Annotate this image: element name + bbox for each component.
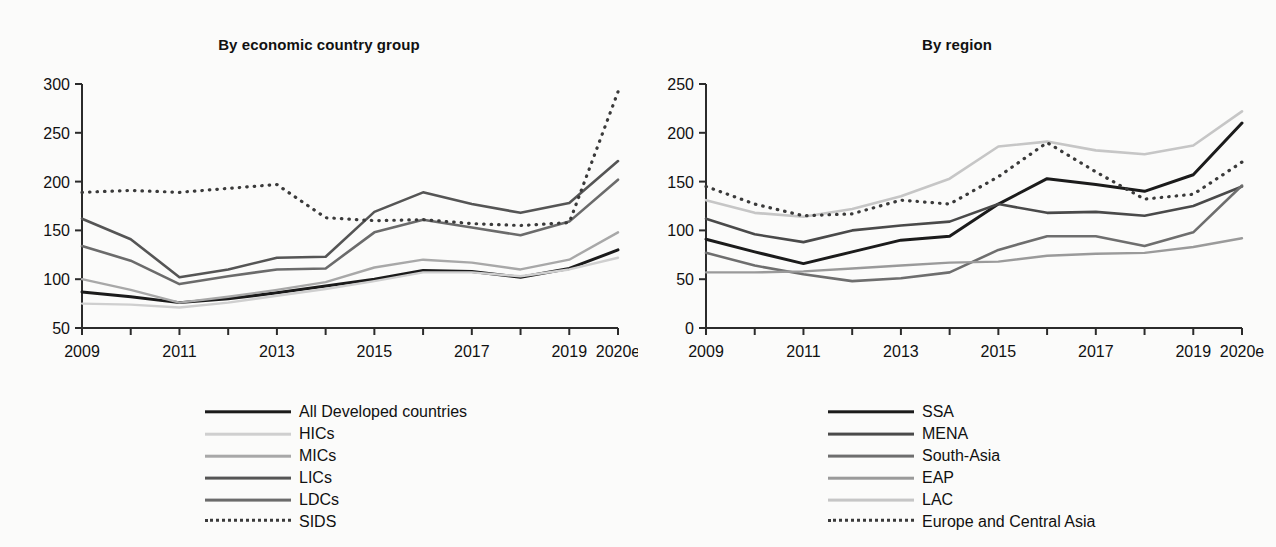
panel-title-right: By region bbox=[638, 36, 1276, 53]
legend-item-label: LICs bbox=[299, 470, 332, 486]
series-line bbox=[82, 232, 618, 302]
x-axis-tick-label: 2019 bbox=[551, 343, 587, 360]
x-axis-tick-label: 2009 bbox=[688, 343, 724, 360]
legend-item[interactable]: LICs bbox=[205, 467, 467, 489]
y-axis-tick-label: 50 bbox=[676, 271, 694, 288]
legend-item-label: MICs bbox=[299, 448, 336, 464]
legend-item-label: Europe and Central Asia bbox=[922, 514, 1095, 530]
x-axis-tick-label: 2013 bbox=[259, 343, 295, 360]
series-line bbox=[706, 238, 1242, 272]
panel-title-left: By economic country group bbox=[0, 36, 638, 53]
y-axis-tick-label: 50 bbox=[52, 320, 70, 337]
series-line bbox=[82, 180, 618, 284]
legend-item-label: HICs bbox=[299, 426, 335, 442]
legend-item-label: SIDS bbox=[299, 514, 336, 530]
series-line bbox=[706, 143, 1242, 216]
legend-line-swatch-icon bbox=[205, 515, 291, 529]
y-axis-tick-label: 100 bbox=[43, 271, 70, 288]
legend-line-swatch-icon bbox=[205, 493, 291, 507]
x-axis-tick-label: 2009 bbox=[64, 343, 100, 360]
legend-item[interactable]: Europe and Central Asia bbox=[828, 511, 1095, 533]
legend-line-swatch-icon bbox=[205, 427, 291, 441]
legend-item-label: South-Asia bbox=[922, 448, 1000, 464]
legend-line-swatch-icon bbox=[828, 515, 914, 529]
legend-item-label: LDCs bbox=[299, 492, 339, 508]
legend-item[interactable]: EAP bbox=[828, 467, 1095, 489]
legend-line-swatch-icon bbox=[828, 493, 914, 507]
legend-right: SSAMENASouth-AsiaEAPLACEurope and Centra… bbox=[638, 401, 1276, 533]
legend-item-label: SSA bbox=[922, 404, 954, 420]
y-axis-tick-label: 100 bbox=[667, 222, 694, 239]
x-axis-tick-label: 2013 bbox=[883, 343, 919, 360]
legend-line-swatch-icon bbox=[828, 449, 914, 463]
legend-item-label: MENA bbox=[922, 426, 968, 442]
legend-line-swatch-icon bbox=[205, 449, 291, 463]
x-axis-tick-label: 2011 bbox=[162, 343, 197, 360]
legend-item[interactable]: LAC bbox=[828, 489, 1095, 511]
y-axis-tick-label: 0 bbox=[685, 320, 694, 337]
x-axis-tick-label: 2017 bbox=[1078, 343, 1114, 360]
legend-item[interactable]: LDCs bbox=[205, 489, 467, 511]
legend-line-swatch-icon bbox=[828, 427, 914, 441]
legend-line-swatch-icon bbox=[205, 471, 291, 485]
legend-line-swatch-icon bbox=[828, 471, 914, 485]
plot-area-right: 0501001502002502009201120132015201720192… bbox=[638, 70, 1276, 360]
y-axis-tick-label: 250 bbox=[43, 125, 70, 142]
legend-line-swatch-icon bbox=[205, 405, 291, 419]
panel-by-region: By region 050100150200250200920112013201… bbox=[638, 0, 1276, 547]
plot-area-left: 5010015020025030020092011201320152017201… bbox=[0, 70, 638, 360]
x-axis-tick-label: 2017 bbox=[454, 343, 490, 360]
x-axis-tick-label: 2011 bbox=[786, 343, 821, 360]
legend-item-label: All Developed countries bbox=[299, 404, 467, 420]
y-axis-tick-label: 300 bbox=[43, 76, 70, 93]
panel-by-economic-country-group: By economic country group 50100150200250… bbox=[0, 0, 638, 547]
legend-item[interactable]: MENA bbox=[828, 423, 1095, 445]
legend-item[interactable]: MICs bbox=[205, 445, 467, 467]
legend-left: All Developed countriesHICsMICsLICsLDCsS… bbox=[0, 401, 638, 533]
series-line bbox=[82, 92, 618, 226]
y-axis-tick-label: 150 bbox=[667, 174, 694, 191]
two-panel-line-chart-figure: By economic country group 50100150200250… bbox=[0, 0, 1276, 547]
legend-item[interactable]: HICs bbox=[205, 423, 467, 445]
line-chart-svg-right: 0501001502002502009201120132015201720192… bbox=[638, 70, 1276, 360]
x-axis-tick-label: 2019 bbox=[1175, 343, 1211, 360]
x-axis-tick-label: 2020e bbox=[1220, 343, 1265, 360]
series-line bbox=[706, 111, 1242, 216]
x-axis-tick-label: 2020e bbox=[596, 343, 638, 360]
x-axis-tick-label: 2015 bbox=[981, 343, 1017, 360]
legend-item-label: LAC bbox=[922, 492, 953, 508]
legend-item[interactable]: SSA bbox=[828, 401, 1095, 423]
y-axis-tick-label: 250 bbox=[667, 76, 694, 93]
legend-line-swatch-icon bbox=[828, 405, 914, 419]
legend-item[interactable]: All Developed countries bbox=[205, 401, 467, 423]
series-line bbox=[706, 186, 1242, 282]
y-axis-tick-label: 200 bbox=[667, 125, 694, 142]
x-axis-tick-label: 2015 bbox=[357, 343, 393, 360]
y-axis-tick-label: 150 bbox=[43, 222, 70, 239]
y-axis-tick-label: 200 bbox=[43, 174, 70, 191]
legend-item-label: EAP bbox=[922, 470, 954, 486]
line-chart-svg-left: 5010015020025030020092011201320152017201… bbox=[0, 70, 638, 360]
legend-item[interactable]: South-Asia bbox=[828, 445, 1095, 467]
legend-item[interactable]: SIDS bbox=[205, 511, 467, 533]
